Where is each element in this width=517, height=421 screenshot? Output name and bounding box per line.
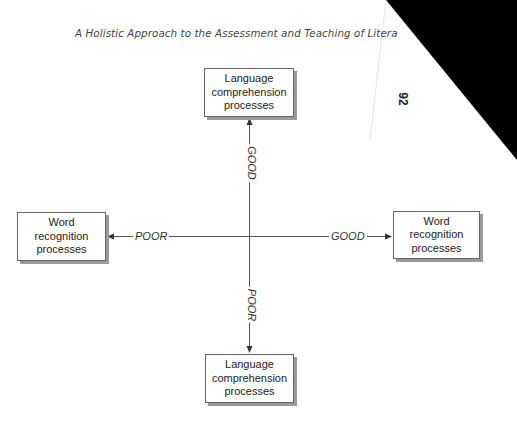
right-box-word-recognition: Word recognition processes (393, 211, 480, 259)
arrow-left-icon (107, 234, 114, 240)
axis-label-horizontal-poor: POOR (133, 230, 169, 242)
box-line: recognition (35, 230, 89, 244)
bottom-box-language-comprehension: Language comprehension processes (205, 354, 294, 403)
box-line: recognition (410, 228, 464, 242)
box-line: processes (224, 99, 274, 113)
axis-label-horizontal-good: GOOD (329, 230, 367, 242)
box-line: Word (423, 215, 449, 229)
axis-label-vertical-good: GOOD (246, 144, 258, 182)
arrow-up-icon (247, 118, 253, 125)
top-box-language-comprehension: Language comprehension processes (204, 68, 294, 117)
axis-label-vertical-poor: POOR (246, 287, 258, 323)
box-line: processes (224, 385, 274, 399)
box-line: Language (225, 72, 274, 86)
arrow-down-icon (247, 346, 253, 353)
box-line: comprehension (211, 86, 286, 100)
box-line: processes (36, 243, 86, 257)
left-box-word-recognition: Word recognition processes (17, 212, 106, 261)
arrow-right-icon (385, 234, 392, 240)
box-line: Language (225, 358, 274, 372)
box-line: Word (48, 216, 74, 230)
box-line: comprehension (212, 372, 287, 386)
box-line: processes (411, 242, 461, 256)
